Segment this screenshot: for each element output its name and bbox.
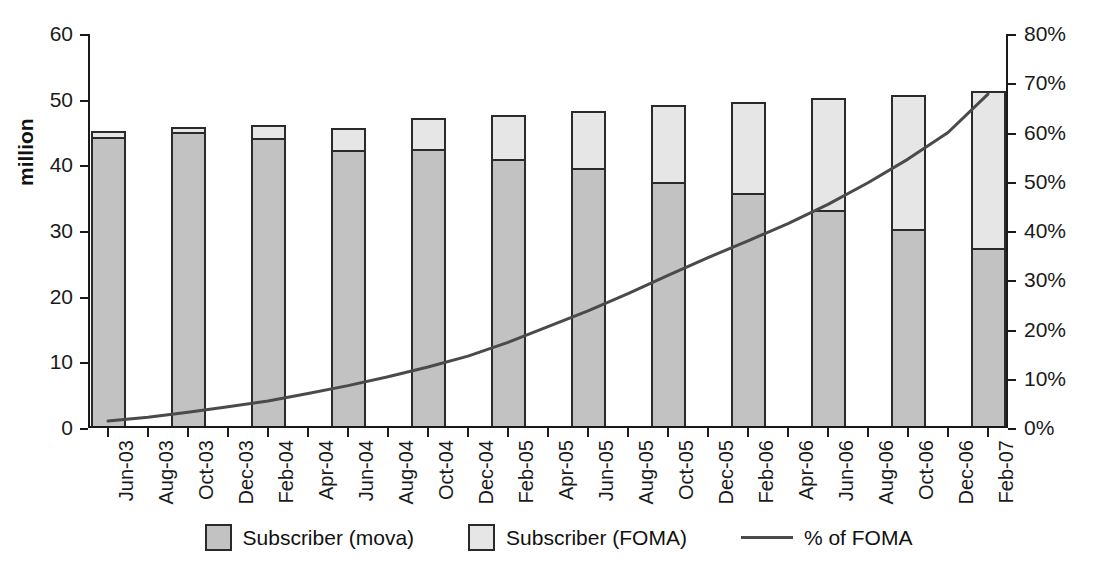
- legend-item[interactable]: % of FOMA: [741, 527, 913, 548]
- x-axis-label: Jun-06: [836, 440, 856, 501]
- y-axis-left-tick-label: 60: [50, 23, 73, 44]
- bar-segment-foma: [813, 100, 844, 210]
- x-axis-tick: [947, 428, 949, 437]
- legend-item[interactable]: Subscriber (mova): [205, 524, 415, 551]
- bar-segment-mova: [493, 159, 524, 426]
- y-axis-right-tick-label: 30%: [1024, 269, 1066, 290]
- bar-segment-foma: [573, 113, 604, 168]
- y-axis-left-tick: 50: [80, 100, 88, 102]
- bar-stack: [331, 128, 366, 426]
- bar-segment-foma: [653, 107, 684, 182]
- plot-area: 0102030405060 0%10%20%30%40%50%60%70%80%: [88, 34, 1008, 428]
- x-axis-tick: [667, 428, 669, 437]
- bar-stack: [171, 127, 206, 426]
- legend-line-marker: [741, 536, 793, 539]
- x-axis-label: Oct-03: [196, 440, 216, 500]
- y-axis-left-tick: 10: [80, 362, 88, 364]
- percent-foma-line: [88, 34, 1008, 428]
- x-axis-tick: [987, 428, 989, 437]
- bar-stack: [811, 98, 846, 426]
- x-axis-tick: [787, 428, 789, 437]
- bar-segment-mova: [973, 248, 1004, 426]
- bar-segment-mova: [93, 137, 124, 426]
- bar-segment-foma: [253, 127, 284, 138]
- y-axis-right-tick: 60%: [1008, 133, 1016, 135]
- x-axis-tick: [547, 428, 549, 437]
- bar-stack: [411, 118, 446, 426]
- x-axis-tick: [907, 428, 909, 437]
- bar-segment-mova: [893, 229, 924, 426]
- y-axis-right-tick-label: 20%: [1024, 319, 1066, 340]
- x-axis-label: Feb-04: [276, 440, 296, 503]
- bar-segment-mova: [813, 210, 844, 426]
- x-axis-tick: [107, 428, 109, 437]
- bar-segment-foma: [493, 117, 524, 158]
- legend-item-label: % of FOMA: [804, 527, 913, 548]
- x-axis-tick: [627, 428, 629, 437]
- y-axis-left-tick-label: 30: [50, 220, 73, 241]
- legend-item-label: Subscriber (FOMA): [506, 527, 687, 548]
- x-axis-label: Aug-05: [636, 440, 656, 505]
- x-axis-tick: [227, 428, 229, 437]
- x-axis-label: Jun-03: [116, 440, 136, 501]
- bar-stack: [491, 115, 526, 426]
- bar-segment-mova: [653, 182, 684, 426]
- y-axis-left-tick-label: 0: [61, 417, 73, 438]
- bar-stack: [731, 102, 766, 426]
- y-axis-right-tick: 10%: [1008, 379, 1016, 381]
- x-axis-tick: [307, 428, 309, 437]
- y-axis-right-tick: 50%: [1008, 182, 1016, 184]
- x-axis-tick: [827, 428, 829, 437]
- y-axis-left-tick-label: 20: [50, 286, 73, 307]
- x-axis-tick: [347, 428, 349, 437]
- bar-stack: [651, 105, 686, 426]
- x-axis-label: Apr-05: [556, 440, 576, 500]
- y-axis-right-tick-label: 0%: [1024, 417, 1054, 438]
- x-axis-label: Apr-04: [316, 440, 336, 500]
- bar-segment-mova: [573, 168, 604, 426]
- bar-segment-foma: [893, 97, 924, 229]
- x-axis-label: Feb-07: [996, 440, 1016, 503]
- y-axis-left-tick: 0: [80, 428, 88, 430]
- x-axis-tick: [507, 428, 509, 437]
- legend-item[interactable]: Subscriber (FOMA): [468, 524, 687, 551]
- x-axis-label: Dec-03: [236, 440, 256, 504]
- x-axis-label: Dec-06: [956, 440, 976, 504]
- y-axis-left-tick-label: 50: [50, 89, 73, 110]
- y-axis-right-tick-label: 70%: [1024, 72, 1066, 93]
- x-axis-tick: [467, 428, 469, 437]
- x-axis-label: Oct-06: [916, 440, 936, 500]
- y-axis-right-tick: 20%: [1008, 330, 1016, 332]
- y-axis-right-tick-label: 10%: [1024, 368, 1066, 389]
- x-axis-tick: [387, 428, 389, 437]
- y-axis-left-tick: 40: [80, 165, 88, 167]
- x-axis-label: Dec-05: [716, 440, 736, 504]
- legend-swatch-mova: [205, 524, 232, 551]
- legend-item-label: Subscriber (mova): [243, 527, 415, 548]
- y-axis-right-tick: 0%: [1008, 428, 1016, 430]
- y-axis-left-tick: 20: [80, 297, 88, 299]
- x-axis-label: Apr-06: [796, 440, 816, 500]
- y-axis-right-tick-label: 50%: [1024, 171, 1066, 192]
- bar-stack: [891, 95, 926, 426]
- y-axis-left-tick: 30: [80, 231, 88, 233]
- bar-segment-foma: [973, 93, 1004, 248]
- x-axis-tick: [187, 428, 189, 437]
- bar-segment-foma: [413, 120, 444, 149]
- x-axis-label: Dec-04: [476, 440, 496, 504]
- x-axis-tick: [427, 428, 429, 437]
- bar-segment-foma: [733, 104, 764, 193]
- y-axis-left-tick-label: 10: [50, 351, 73, 372]
- x-axis-tick: [867, 428, 869, 437]
- bar-segment-mova: [733, 193, 764, 426]
- x-axis-label: Feb-06: [756, 440, 776, 503]
- x-axis-label: Feb-05: [516, 440, 536, 503]
- legend-swatch-foma: [468, 524, 495, 551]
- x-axis-label: Oct-05: [676, 440, 696, 500]
- y-axis-left-tick: 60: [80, 34, 88, 36]
- y-axis-right-tick-label: 40%: [1024, 220, 1066, 241]
- y-axis-left-tick-label: 40: [50, 154, 73, 175]
- x-axis-labels: Jun-03Aug-03Oct-03Dec-03Feb-04Apr-04Jun-…: [88, 440, 1008, 520]
- x-axis-tick: [587, 428, 589, 437]
- bar-segment-mova: [253, 138, 284, 426]
